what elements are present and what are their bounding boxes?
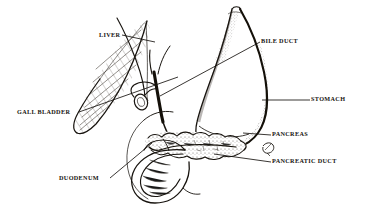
anatomy-diagram: LIVER BILE DUCT GALL BLADDER STOMACH PAN…	[0, 0, 367, 219]
label-pancreas: PANCREAS	[272, 131, 308, 137]
label-gall-bladder: GALL BLADDER	[17, 109, 70, 115]
label-bile-duct: BILE DUCT	[261, 38, 298, 44]
label-stomach: STOMACH	[311, 96, 345, 102]
label-pancreatic-duct: PANCREATIC DUCT	[272, 158, 337, 164]
label-liver: LIVER	[99, 32, 120, 38]
label-duodenum: DUODENUM	[59, 175, 99, 181]
